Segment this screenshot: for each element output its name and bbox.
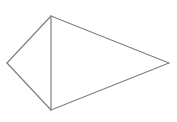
edge-top-right [51, 16, 169, 63]
edge-right-bottom [51, 63, 169, 110]
edge-top-left [7, 16, 51, 63]
edge-left-bottom [7, 63, 51, 110]
kite-diagram [0, 0, 177, 122]
kite-edges [7, 16, 169, 110]
